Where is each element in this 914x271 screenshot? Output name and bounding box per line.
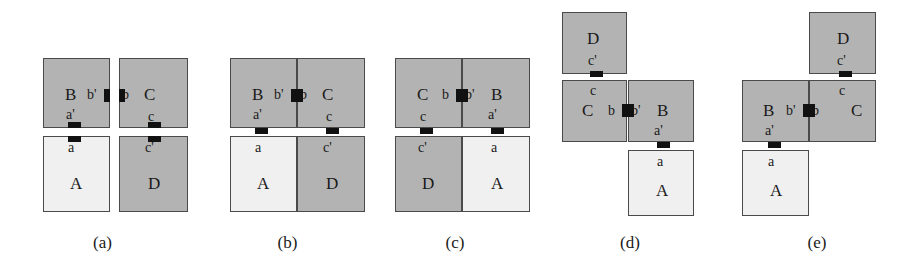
edge-label-c: c	[839, 84, 845, 98]
edge-label-b-prime: b'	[87, 88, 97, 102]
panel-caption-d: (d)	[540, 234, 720, 251]
edge-label-c: c	[420, 110, 426, 124]
edge-label-a: a	[657, 155, 663, 169]
panel-caption-b: (b)	[205, 234, 370, 251]
tile-label-D: D	[326, 175, 338, 192]
edge-label-b: b	[442, 88, 449, 102]
edge-label-c-prime: c'	[418, 141, 427, 155]
tile-label-C: C	[851, 102, 862, 119]
edge-label-b-prime: b'	[274, 88, 284, 102]
tile-label-B: B	[65, 86, 76, 103]
panel-e: D C B A c' c b' b a' a (e)	[720, 0, 914, 271]
edge-label-a-prime: a'	[66, 108, 75, 122]
edge-label-c-prime: c'	[837, 54, 846, 68]
edge-label-c-prime: c'	[323, 141, 332, 155]
connector-a	[657, 142, 670, 148]
tile-label-B: B	[252, 86, 263, 103]
tile-B[interactable]	[230, 58, 297, 128]
connector-b	[809, 104, 815, 117]
edge-label-a: a	[255, 141, 261, 155]
connector-c	[326, 128, 339, 134]
connector-a	[768, 142, 781, 148]
tile-label-A: A	[70, 175, 82, 192]
edge-label-a: a	[491, 141, 497, 155]
connector-c-prime	[148, 136, 161, 142]
connector-a	[255, 128, 268, 134]
tile-B[interactable]	[43, 58, 110, 128]
tile-label-B: B	[491, 86, 502, 103]
edge-label-a: a	[68, 141, 74, 155]
connector-c	[420, 128, 433, 134]
edge-label-a-prime: a'	[765, 124, 774, 138]
tiling-figure: B C A D b' b a' a c c' (a) B C A D b' b …	[0, 0, 914, 271]
tile-C[interactable]	[395, 58, 462, 128]
edge-label-c: c	[326, 110, 332, 124]
edge-label-a-prime: a'	[488, 108, 497, 122]
panel-d: D C B A c' c b b' a' a (d)	[540, 0, 720, 271]
panel-caption-a: (a)	[0, 234, 205, 251]
edge-label-b: b	[608, 104, 615, 118]
connector-a	[68, 136, 81, 142]
connector-b-prime	[628, 104, 634, 117]
panel-c: C B D A b b' c c' a' a (c)	[370, 0, 540, 271]
tile-label-B: B	[657, 102, 668, 119]
panel-caption-e: (e)	[720, 234, 914, 251]
tile-label-C: C	[582, 102, 593, 119]
connector-b-prime	[104, 89, 110, 102]
tile-label-A: A	[257, 175, 269, 192]
connector-b	[119, 89, 125, 102]
connector-a-prime	[68, 122, 81, 128]
tile-label-D: D	[837, 30, 849, 47]
edge-label-a: a	[768, 155, 774, 169]
connector-c	[590, 71, 603, 77]
tile-label-D: D	[587, 30, 599, 47]
tile-label-A: A	[770, 182, 782, 199]
connector-b	[297, 89, 303, 102]
tile-label-B: B	[763, 102, 774, 119]
tile-label-A: A	[491, 175, 503, 192]
edge-label-a-prime: a'	[654, 124, 663, 138]
tile-B[interactable]	[742, 80, 809, 142]
edge-label-c-prime: c'	[145, 141, 154, 155]
connector-a	[491, 128, 504, 134]
tile-label-C: C	[144, 86, 155, 103]
connector-b-prime	[462, 89, 468, 102]
panel-b: B C A D b' b a' a c c' (b)	[205, 0, 370, 271]
panel-a: B C A D b' b a' a c c' (a)	[0, 0, 205, 271]
tile-label-C: C	[322, 86, 333, 103]
tile-label-D: D	[148, 175, 160, 192]
edge-label-a-prime: a'	[253, 108, 262, 122]
connector-c	[148, 122, 161, 128]
tile-label-C: C	[417, 86, 428, 103]
panel-caption-c: (c)	[370, 234, 540, 251]
connector-c	[839, 71, 852, 77]
edge-label-c: c	[590, 84, 596, 98]
tile-label-D: D	[422, 175, 434, 192]
edge-label-c-prime: c'	[588, 54, 597, 68]
edge-label-b-prime: b'	[786, 104, 796, 118]
tile-label-A: A	[656, 182, 668, 199]
